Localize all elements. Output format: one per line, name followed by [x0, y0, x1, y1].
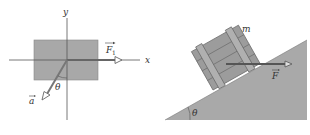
force-label: F — [271, 71, 279, 81]
accel-label: a — [29, 96, 34, 106]
force-f1-subscript: 1 — [112, 49, 116, 56]
right-figure: θ m F — [165, 23, 307, 120]
left-figure: y x F 1 a θ — [9, 7, 150, 120]
mass-label: m — [242, 24, 251, 34]
y-axis-label: y — [62, 7, 69, 17]
x-axis-label: x — [145, 55, 150, 65]
angle-label-left: θ — [55, 82, 61, 92]
force-f1-arrowhead-icon — [115, 57, 122, 64]
accel-overarrow-tip-icon — [34, 95, 36, 97]
angle-label-right: θ — [192, 108, 198, 118]
force-f1-overarrow-tip-icon — [113, 42, 116, 44]
diagram-canvas: y x F 1 a θ θ m — [0, 0, 310, 135]
